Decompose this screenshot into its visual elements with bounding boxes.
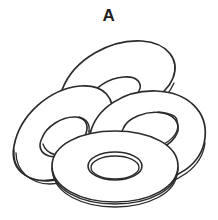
figure-container: A [0,0,218,220]
figure-label: A [0,6,218,26]
washer-stack-illustration [0,28,218,220]
washer-front [52,131,178,207]
washer-front-outer-edge [52,131,178,202]
